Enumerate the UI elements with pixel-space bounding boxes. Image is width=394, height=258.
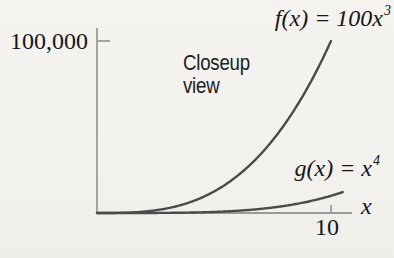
y-axis-tick-label: 100,000 — [2, 29, 88, 53]
x-axis-tick-label: 10 — [309, 215, 345, 239]
g-series-label-base: g(x) = x — [295, 155, 372, 181]
annotation-line-2: view — [183, 74, 250, 97]
x-axis-label: x — [361, 194, 372, 218]
f-series-label-base: f(x) = 100x — [275, 5, 383, 31]
annotation-line-1: Closeup — [183, 51, 250, 74]
closeup-graph-figure: 100,000 f(x) = 100x3 g(x) = x4 Closeup v… — [0, 0, 394, 258]
g-curve — [97, 192, 343, 213]
g-series-label-exponent: 4 — [373, 153, 380, 168]
g-series-label: g(x) = x4 — [295, 151, 380, 180]
f-series-label-exponent: 3 — [384, 3, 391, 18]
closeup-view-annotation: Closeup view — [183, 51, 250, 97]
f-series-label: f(x) = 100x3 — [275, 1, 391, 30]
